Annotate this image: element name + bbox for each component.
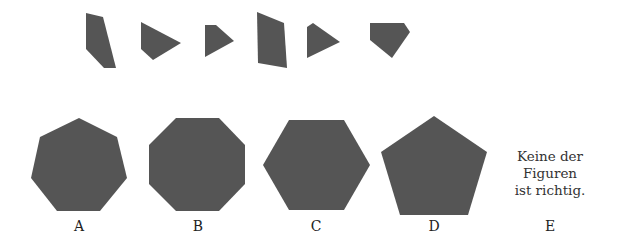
option-a-heptagon[interactable]	[31, 118, 127, 211]
option-e-line-2: Figuren	[510, 165, 590, 182]
option-e-label: E	[530, 218, 570, 234]
option-c-label: C	[296, 218, 336, 234]
puzzle-canvas	[0, 0, 617, 252]
option-d-pentagon[interactable]	[381, 116, 487, 215]
option-e-line-3: ist richtig.	[510, 182, 590, 199]
option-e-line-1: Keine der	[510, 148, 590, 165]
puzzle-piece-5	[307, 23, 340, 58]
option-c-hexagon[interactable]	[263, 120, 370, 210]
option-b-label: B	[178, 218, 218, 234]
pieces-group	[86, 12, 410, 68]
option-e-text[interactable]: Keine der Figuren ist richtig.	[510, 148, 590, 199]
puzzle-piece-3	[205, 25, 234, 57]
puzzle-piece-1	[86, 13, 116, 68]
option-d-label: D	[414, 218, 454, 234]
puzzle-piece-6	[370, 23, 410, 58]
puzzle-piece-4	[257, 12, 287, 68]
puzzle-piece-2	[141, 22, 181, 60]
option-a-label: A	[59, 218, 99, 234]
options-group	[31, 116, 487, 215]
option-b-octagon[interactable]	[149, 118, 245, 211]
